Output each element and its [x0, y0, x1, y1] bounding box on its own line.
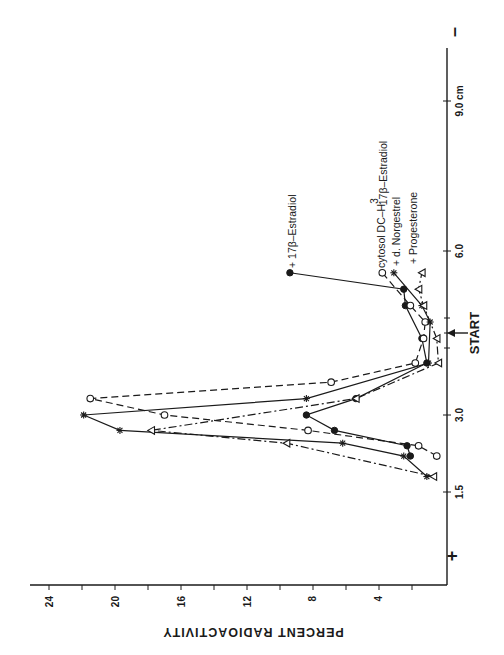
open-circle-marker	[412, 360, 419, 367]
value-axis-title: PERCENT RADIOACTIVITY	[162, 625, 343, 639]
series-cytosol	[87, 269, 440, 459]
filled-circle-marker	[303, 412, 309, 418]
filled-circle-marker	[407, 453, 413, 459]
legend-cytosol: cytosol DC–H317β–Estradiol	[369, 141, 389, 268]
value-tick-label: 12	[242, 596, 253, 608]
open-triangle-marker	[430, 473, 437, 481]
filled-circle-marker	[331, 427, 337, 433]
asterisk-marker	[400, 453, 407, 460]
electrophoresis-chart: 2420161284 9.0 cm6.03.01.5 PERCENT RADIO…	[0, 0, 504, 655]
series-cytosol-line	[90, 273, 437, 456]
asterisk-marker	[339, 440, 346, 447]
value-tick-label: 24	[44, 596, 55, 608]
filled-circle-marker	[287, 270, 293, 276]
asterisk-marker	[390, 269, 397, 276]
svg-text:cytosol DC–H317β–Estradiol: cytosol DC–H317β–Estradiol	[369, 141, 389, 268]
open-circle-marker	[415, 442, 422, 449]
value-tick-label: 20	[110, 596, 121, 608]
open-circle-marker	[328, 379, 335, 386]
series-progesterone-line	[151, 273, 438, 477]
open-circle-marker	[305, 427, 312, 434]
value-tick-label: 16	[176, 596, 187, 608]
asterisk-marker	[80, 412, 87, 419]
open-circle-marker	[379, 269, 386, 276]
open-circle-marker	[87, 395, 94, 402]
series-layer	[80, 269, 441, 480]
minus-pole-label: –	[444, 27, 464, 37]
series-norgestrel	[80, 269, 434, 480]
legend-cytosol-sub: 17β–Estradiol	[377, 141, 389, 205]
start-marker: START	[447, 312, 482, 354]
plus-pole-label: +	[442, 551, 462, 562]
open-triangle-marker	[415, 285, 422, 293]
distance-tick-label: 1.5	[454, 485, 465, 499]
open-circle-marker	[161, 412, 168, 419]
distance-tick-label: 6.0	[454, 244, 465, 258]
open-triangle-marker	[433, 335, 440, 343]
value-tick-label: 8	[307, 596, 318, 602]
legend-norgestrel: + d. Norgestrel	[390, 197, 402, 266]
distance-tick-label: 9.0 cm	[454, 85, 465, 116]
value-axis-ticks: 2420161284	[44, 585, 412, 607]
open-triangle-marker	[435, 359, 442, 367]
asterisk-marker	[303, 395, 310, 402]
open-circle-marker	[407, 302, 414, 309]
start-label: START	[467, 312, 482, 354]
asterisk-marker	[425, 360, 432, 367]
legend-progesterone: + Progesterone	[407, 192, 419, 264]
open-circle-marker	[433, 453, 440, 460]
legend-cytosol-prefix: cytosol DC–H	[375, 204, 387, 268]
series-progesterone	[148, 269, 442, 480]
distance-tick-label: 3.0	[454, 408, 465, 422]
distance-axis-ticks: 9.0 cm6.03.01.5	[443, 85, 465, 499]
open-circle-marker	[420, 335, 427, 342]
asterisk-marker	[116, 427, 123, 434]
legend-estradiol: + 17β–Estradiol	[286, 195, 298, 268]
series-norgestrel-line	[84, 273, 431, 477]
open-triangle-marker	[148, 427, 155, 435]
value-tick-label: 4	[373, 596, 384, 602]
